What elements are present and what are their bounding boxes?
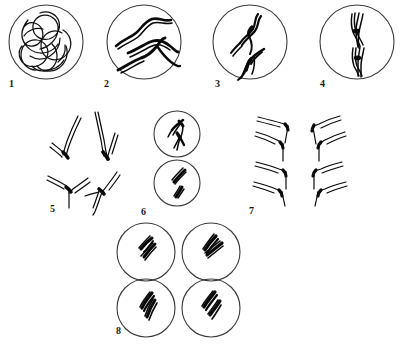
panel-label-8: 8 — [116, 325, 121, 336]
centromere-lower-4 — [354, 56, 361, 61]
panel-label-2: 2 — [104, 78, 109, 89]
cell-outline-8-br — [182, 279, 240, 337]
chromosome-5-top-left — [50, 116, 81, 158]
panel-label-7: 7 — [249, 205, 254, 216]
cell-8-top-left — [117, 223, 175, 281]
panel-4-metaphase-one: 4 — [320, 5, 394, 89]
cell-8-bottom-right — [182, 279, 240, 337]
cell-6-lower — [154, 160, 200, 206]
chromosome-group-7-top-right — [312, 116, 346, 161]
cell-outline-2 — [107, 5, 181, 79]
chromosome-group-7-bottom-right — [313, 162, 347, 206]
meiosis-diagram-canvas: 1 2 — [0, 0, 407, 345]
chromosome-group-7-bottom-left — [253, 162, 286, 206]
tetrad-lower-4 — [352, 47, 364, 77]
panel-7-anaphase-two: 7 — [249, 116, 347, 216]
panel-label-1: 1 — [9, 78, 14, 89]
cell-outline-6-lower — [154, 160, 200, 206]
panel-2-zygotene: 2 — [104, 5, 181, 89]
panel-6-telophase-one: 6 — [141, 111, 200, 217]
chromosome-threads-2 — [116, 19, 180, 73]
cell-8-bottom-left — [117, 279, 175, 337]
panel-label-4: 4 — [320, 78, 325, 89]
panel-8-telophase-two: 8 — [116, 223, 240, 337]
chromosome-5-top-right — [95, 112, 118, 160]
cell-8-top-right — [182, 223, 240, 281]
meiosis-figure: 1 2 — [0, 0, 407, 345]
panel-label-6: 6 — [141, 206, 146, 217]
cell-outline-3 — [213, 5, 287, 79]
chromatin-tangle-1 — [19, 12, 71, 71]
panel-3-bivalent: 3 — [213, 5, 287, 89]
panel-1-leptotene: 1 — [9, 5, 83, 89]
bivalent-upper-3 — [231, 14, 261, 56]
panel-5-anaphase-one: 5 — [47, 112, 120, 215]
centromere-upper-4 — [353, 29, 360, 34]
cell-6-upper — [154, 111, 200, 157]
tetrad-upper-4 — [351, 13, 363, 48]
cell-outline-1 — [9, 5, 83, 79]
panel-label-3: 3 — [215, 78, 220, 89]
panel-label-5: 5 — [50, 203, 55, 214]
chromosome-group-7-top-left — [255, 117, 288, 161]
chromosome-5-bottom-right — [85, 172, 120, 215]
